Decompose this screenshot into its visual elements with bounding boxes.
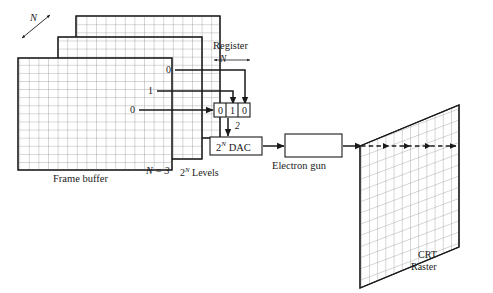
- plane-3-bit-value: 0: [166, 64, 171, 75]
- register-width-letter: N: [220, 54, 226, 64]
- dac-suffix: DAC: [226, 142, 251, 153]
- levels-suffix: Levels: [190, 167, 219, 178]
- register-cell-0: 0: [218, 105, 223, 116]
- register-width-label: N: [220, 55, 226, 65]
- plane-2-bit-value: 1: [148, 85, 153, 96]
- register-label: Register: [213, 40, 248, 51]
- electron-gun-box: [285, 134, 342, 157]
- register-cell-2: 0: [242, 105, 247, 116]
- frame-buffer-plane-1: [18, 58, 172, 170]
- electron-gun-label: Electron gun: [272, 160, 326, 171]
- levels-label: 2N Levels: [180, 166, 219, 179]
- dac-input-label: 2: [235, 122, 240, 132]
- frame-buffer-depth-label: N: [30, 12, 37, 23]
- crt-raster: [360, 105, 459, 288]
- plane-count-label: N = 3: [146, 166, 169, 177]
- register-cell-1: 1: [230, 105, 235, 116]
- dac-label: 2N DAC: [216, 141, 251, 153]
- plane-1-bit-value: 0: [130, 104, 135, 115]
- crt-label-line1: CRT: [418, 250, 437, 261]
- frame-buffer-label: Frame buffer: [53, 173, 108, 184]
- raster-display-diagram: N Frame buffer N = 3 2N Levels Register …: [0, 0, 493, 293]
- crt-label-line2: Raster: [411, 262, 437, 273]
